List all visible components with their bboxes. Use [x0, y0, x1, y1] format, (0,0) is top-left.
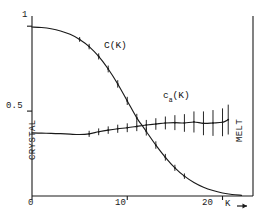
curve-label-ca-subscript: a — [169, 97, 173, 104]
data-point-marker — [126, 100, 128, 102]
data-point-marker — [79, 39, 81, 41]
data-point-marker — [155, 144, 157, 146]
data-point-marker — [107, 68, 109, 70]
data-point-marker — [184, 122, 186, 124]
data-point-marker — [145, 124, 147, 126]
curve-label-ca-of-k: ca(K) — [163, 90, 190, 103]
data-point-marker — [164, 122, 166, 124]
y-tick-label-1: 1 — [22, 10, 28, 20]
data-point-marker — [184, 175, 186, 177]
data-point-marker — [174, 167, 176, 169]
curve-label-c-of-k: C(K) — [104, 40, 127, 51]
figure-container: 1 0.5 0 10 20 K CRYSTAL MELT C(K) ca(K) — [0, 0, 273, 221]
x-tick-label-10: 10 — [115, 198, 126, 208]
data-point-marker — [107, 129, 109, 131]
curve-label-ca-base: c — [163, 90, 169, 101]
data-point-marker — [222, 121, 224, 123]
series-c-of-k — [32, 27, 242, 195]
data-point-marker — [227, 119, 229, 121]
curve-label-ca-tail: (K) — [173, 90, 190, 101]
phase-label-crystal: CRYSTAL — [28, 119, 38, 160]
data-point-marker — [203, 122, 205, 124]
data-point-marker — [88, 133, 90, 135]
series-ca-of-k — [32, 105, 229, 137]
plot-canvas — [0, 0, 273, 221]
x-axis-arrow-icon — [237, 204, 247, 209]
x-axis-name-label: K — [225, 199, 230, 209]
data-point-marker — [174, 122, 176, 124]
y-tick-label-0point5: 0.5 — [6, 101, 23, 111]
data-point-marker — [117, 128, 119, 130]
series-line — [32, 27, 242, 195]
axis-lines — [32, 16, 253, 196]
data-point-marker — [98, 56, 100, 58]
data-point-marker — [164, 156, 166, 158]
data-point-marker — [98, 131, 100, 133]
data-point-marker — [212, 122, 214, 124]
series-line — [32, 120, 228, 135]
tick-marks — [27, 26, 223, 200]
data-point-marker — [193, 121, 195, 123]
data-point-marker — [155, 123, 157, 125]
data-point-marker — [88, 46, 90, 48]
x-tick-label-20: 20 — [202, 198, 213, 208]
data-point-marker — [117, 83, 119, 85]
phase-label-melt: MELT — [235, 119, 245, 142]
data-point-marker — [126, 127, 128, 129]
data-point-marker — [136, 125, 138, 127]
data-point-marker — [145, 131, 147, 133]
data-point-marker — [136, 117, 138, 119]
x-tick-label-0: 0 — [28, 198, 34, 208]
data-series-layer — [32, 27, 242, 195]
